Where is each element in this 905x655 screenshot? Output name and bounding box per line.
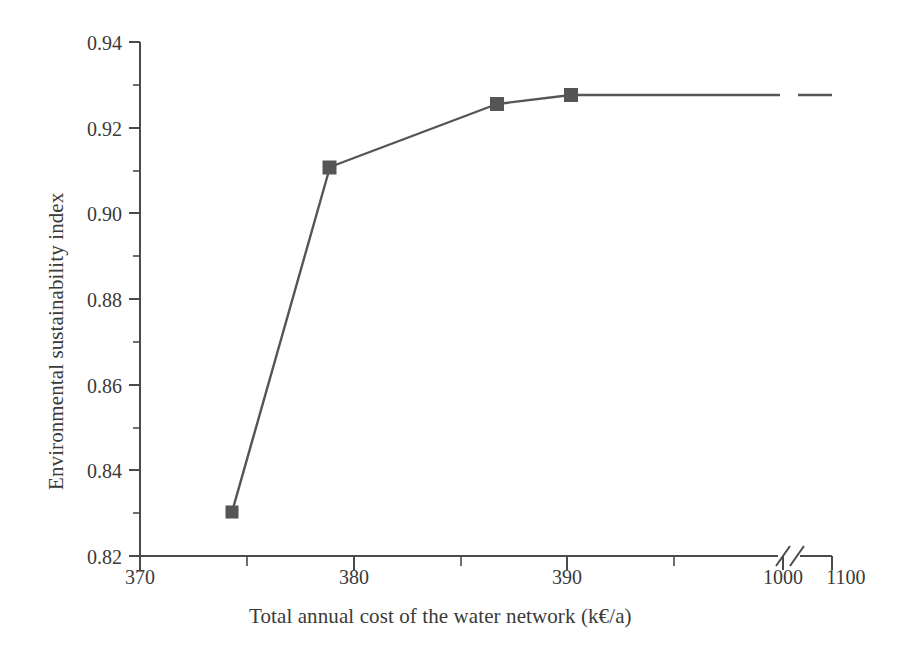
y-axis-title: Environmental sustainability index [44, 193, 69, 490]
x-axis-major-ticks [140, 556, 832, 570]
y-tick-label-0.84: 0.84 [62, 460, 122, 483]
x-tick-label-390: 390 [527, 566, 607, 589]
x-axis-break-icon [776, 546, 804, 566]
x-tick-label-1100: 1100 [806, 566, 886, 589]
y-tick-label-0.86: 0.86 [62, 375, 122, 398]
x-tick-label-380: 380 [314, 566, 394, 589]
data-point-4 [564, 88, 578, 102]
x-axis-title: Total annual cost of the water network (… [249, 604, 632, 629]
data-point-3 [490, 97, 504, 111]
y-tick-label-0.92: 0.92 [62, 118, 122, 141]
y-tick-label-0.88: 0.88 [62, 289, 122, 312]
series-markers [226, 88, 579, 519]
x-tick-label-370: 370 [100, 566, 180, 589]
data-point-2 [323, 161, 337, 175]
data-point-1 [226, 506, 239, 519]
y-tick-label-0.90: 0.90 [62, 203, 122, 226]
series-line-main [232, 95, 780, 512]
y-tick-label-0.94: 0.94 [62, 32, 122, 55]
y-axis-major-ticks [129, 42, 140, 556]
x-axis-minor-ticks [247, 556, 674, 566]
plot-area [0, 0, 905, 655]
chart-figure: Environmental sustainability index Total… [0, 0, 905, 655]
